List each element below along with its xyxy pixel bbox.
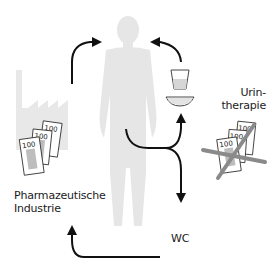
- urine-cycle-diagram: 100 100 100 100 100: [0, 0, 279, 273]
- arrow-icon: [155, 42, 181, 62]
- pharma-industry-label: Pharmazeutische Industrie: [14, 189, 124, 215]
- crossed-banknotes-icon: 100 100 100: [203, 121, 265, 178]
- arrow-icon: [166, 148, 181, 198]
- pharma-industry-label-line2: Industrie: [14, 202, 124, 215]
- wc-label: WC: [171, 232, 189, 245]
- pharma-industry-label-line1: Pharmazeutische: [14, 189, 124, 202]
- arrow-icon: [72, 230, 160, 257]
- urine-therapy-label-line2: therapie: [206, 99, 266, 112]
- urine-therapy-label-line1: Urin-: [206, 86, 266, 99]
- urine-therapy-label: Urin- therapie: [206, 86, 266, 112]
- bowl-icon: [166, 97, 194, 106]
- cup-icon: [171, 70, 189, 89]
- arrow-icon: [72, 42, 97, 84]
